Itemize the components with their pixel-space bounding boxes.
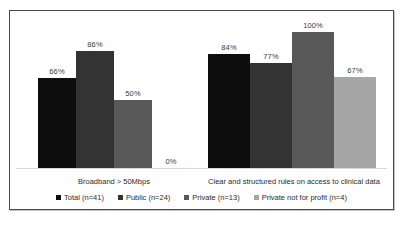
category-label-clinical-data-rules: Clear and structured rules on access to …: [196, 177, 392, 186]
bar-slot: 50%: [114, 22, 152, 168]
bar-group-broadband: 66% 86% 50% 0%: [38, 22, 190, 168]
chart-frame: 66% 86% 50% 0% 84% 77%: [9, 10, 394, 210]
bar-public[interactable]: [76, 51, 114, 168]
bar-value-label: 77%: [250, 52, 292, 61]
bar-public[interactable]: [250, 63, 292, 168]
legend-item-private[interactable]: Private (n=13): [184, 193, 239, 202]
bar-slot: 86%: [76, 22, 114, 168]
legend-label: Public (n=24): [126, 193, 170, 202]
category-label-broadband: Broadband > 50Mbps: [24, 177, 204, 186]
bar-value-label: 50%: [114, 89, 152, 98]
legend-item-private-not-for-profit[interactable]: Private not for profit (n=4): [254, 193, 347, 202]
bar-private-not-for-profit[interactable]: [334, 77, 376, 168]
bar-value-label: 0%: [152, 157, 190, 166]
bar-slot: 0%: [152, 22, 190, 168]
bar-slot: 77%: [250, 22, 292, 168]
bar-slot: 84%: [208, 22, 250, 168]
axis-baseline: [16, 168, 387, 169]
bar-value-label: 66%: [38, 67, 76, 76]
legend-swatch-icon: [254, 195, 259, 200]
bar-slot: 100%: [292, 22, 334, 168]
legend-label: Private not for profit (n=4): [262, 193, 347, 202]
bar-private[interactable]: [292, 32, 334, 168]
legend-swatch-icon: [184, 195, 189, 200]
legend-swatch-icon: [118, 195, 123, 200]
bar-value-label: 67%: [334, 66, 376, 75]
bar-slot: 67%: [334, 22, 376, 168]
plot-area: 66% 86% 50% 0% 84% 77%: [10, 11, 393, 169]
legend-item-public[interactable]: Public (n=24): [118, 193, 170, 202]
bar-group-clinical-data-rules: 84% 77% 100% 67%: [208, 22, 376, 168]
bar-value-label: 100%: [292, 21, 334, 30]
legend-label: Total (n=41): [64, 193, 104, 202]
bar-value-label: 84%: [208, 43, 250, 52]
legend-item-total[interactable]: Total (n=41): [56, 193, 104, 202]
bar-private[interactable]: [114, 100, 152, 168]
bar-slot: 66%: [38, 22, 76, 168]
chart-legend: Total (n=41) Public (n=24) Private (n=13…: [10, 193, 393, 202]
legend-swatch-icon: [56, 195, 61, 200]
legend-label: Private (n=13): [192, 193, 239, 202]
bar-value-label: 86%: [76, 40, 114, 49]
bar-total[interactable]: [208, 54, 250, 168]
bar-total[interactable]: [38, 78, 76, 168]
